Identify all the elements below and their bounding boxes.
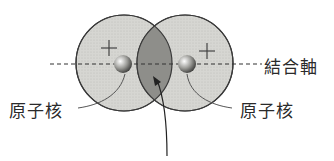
orbital-overlap-figure bbox=[0, 0, 334, 161]
nucleus-right-icon bbox=[178, 55, 196, 73]
sigma-bond-diagram: 結合軸 原子核 原子核 bbox=[0, 0, 334, 161]
nucleus-right-label: 原子核 bbox=[240, 97, 294, 122]
nucleus-left-icon bbox=[114, 55, 132, 73]
bond-axis-label: 結合軸 bbox=[264, 53, 318, 78]
nucleus-left-label: 原子核 bbox=[9, 97, 63, 122]
